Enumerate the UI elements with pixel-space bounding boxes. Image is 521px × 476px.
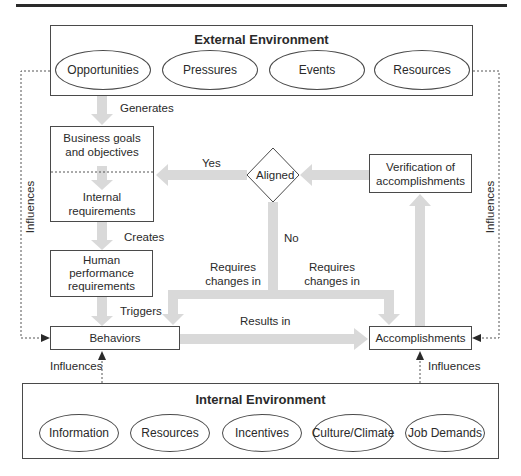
internal-environment-title: Internal Environment xyxy=(23,392,498,407)
accomplishments-label: Accomplishments xyxy=(370,331,471,345)
edge-label-no: No xyxy=(284,231,299,245)
ext-item-pressures: Pressures xyxy=(162,50,258,90)
edge-label-results-in: Results in xyxy=(240,314,291,328)
verification-box: Verification of accomplishments xyxy=(369,154,472,193)
human-performance-line2: performance xyxy=(51,266,152,280)
external-environment-title: External Environment xyxy=(51,32,472,47)
int-item-resources: Resources xyxy=(130,414,210,452)
verification-line1: Verification of xyxy=(370,160,471,174)
human-performance-line3: requirements xyxy=(51,279,152,293)
edge-label-triggers: Triggers xyxy=(120,304,162,318)
accomplishments-box: Accomplishments xyxy=(369,326,472,350)
edge-label-creates: Creates xyxy=(124,230,164,244)
human-performance-line1: Human xyxy=(51,253,152,267)
internal-requirements-line1: Internal xyxy=(51,190,153,204)
int-item-incentives: Incentives xyxy=(222,414,302,452)
business-goals-line1: Business goals xyxy=(51,131,153,145)
requires-right-line1: Requires xyxy=(302,260,362,274)
behaviors-label: Behaviors xyxy=(51,331,179,345)
human-performance-box: Human performance requirements xyxy=(50,250,153,297)
edge-label-influences-left: Influences xyxy=(24,179,36,235)
int-item-job-demands: Job Demands xyxy=(405,414,485,452)
business-goals-line2: and objectives xyxy=(51,145,153,159)
external-environment-box: External Environment Opportunities Press… xyxy=(50,25,473,96)
edge-label-requires-left: Requires changes in xyxy=(203,260,263,288)
requires-left-line2: changes in xyxy=(203,274,263,288)
requires-right-line2: changes in xyxy=(302,274,362,288)
ext-item-events: Events xyxy=(269,50,365,90)
int-item-information: Information xyxy=(39,414,119,452)
edge-label-influences-right: Influences xyxy=(484,179,496,235)
business-goals-box: Business goals and objectives Internal r… xyxy=(50,126,154,222)
ext-item-resources: Resources xyxy=(374,50,470,90)
edge-label-yes: Yes xyxy=(202,156,221,170)
behaviors-box: Behaviors xyxy=(50,326,180,350)
edge-label-influences-accomplishments: Influences xyxy=(428,359,480,373)
edge-label-generates: Generates xyxy=(120,101,174,115)
requires-left-line1: Requires xyxy=(203,260,263,274)
internal-environment-box: Internal Environment Information Resourc… xyxy=(22,383,499,459)
decision-aligned: Aligned xyxy=(256,168,290,182)
ext-item-opportunities: Opportunities xyxy=(55,50,151,90)
int-item-culture-climate: Culture/Climate xyxy=(313,414,393,452)
edge-label-influences-behaviors: Influences xyxy=(50,359,102,373)
edge-label-requires-right: Requires changes in xyxy=(302,260,362,288)
verification-line2: accomplishments xyxy=(370,174,471,188)
internal-requirements-line2: requirements xyxy=(51,204,153,218)
